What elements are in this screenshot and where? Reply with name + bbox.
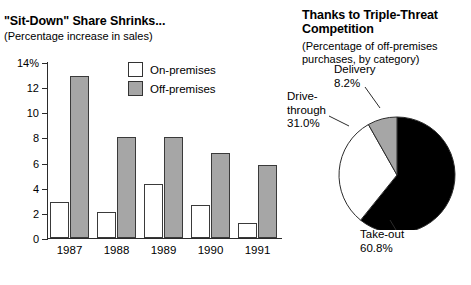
pie-chart-title: Thanks to Triple-Threat Competition bbox=[302, 8, 470, 36]
bar-group-1989 bbox=[144, 62, 191, 238]
pie-chart-panel: Thanks to Triple-Threat Competition (Per… bbox=[292, 0, 471, 285]
bar-1991-off-premises bbox=[258, 165, 277, 238]
bar-group-1988 bbox=[97, 62, 144, 238]
x-axis-label-1988: 1988 bbox=[93, 244, 140, 256]
bar-chart-title: "Sit-Down" Share Shrinks... bbox=[4, 14, 165, 28]
pie-label-drive-through: Drive- through 31.0% bbox=[287, 90, 326, 131]
pie-label-drive-through-name-2: through bbox=[287, 104, 326, 118]
bar-group-1990 bbox=[191, 62, 238, 238]
bar-1989-on-premises bbox=[144, 184, 163, 238]
y-tick-mark bbox=[42, 214, 48, 215]
y-tick-label: 10 bbox=[0, 113, 39, 114]
y-tick-label: 14% bbox=[0, 63, 39, 64]
y-tick-label: 12 bbox=[0, 88, 39, 89]
x-axis-label-1989: 1989 bbox=[140, 244, 187, 256]
bar-chart-panel: "Sit-Down" Share Shrinks... (Percentage … bbox=[0, 0, 292, 285]
bar-1987-on-premises bbox=[50, 202, 69, 238]
y-tick-label: 8 bbox=[0, 138, 39, 139]
x-axis-line bbox=[47, 238, 282, 239]
x-axis-label-1987: 1987 bbox=[46, 244, 93, 256]
pie-label-take-out: Take-out 60.8% bbox=[360, 228, 404, 255]
y-tick-mark bbox=[42, 63, 48, 64]
bar-1989-off-premises bbox=[164, 137, 183, 238]
pie-chart-graphic bbox=[287, 55, 471, 230]
y-tick-mark bbox=[42, 164, 48, 165]
pie-label-drive-through-value: 31.0% bbox=[287, 117, 326, 131]
y-tick-label: 6 bbox=[0, 164, 39, 165]
pie-label-take-out-value: 60.8% bbox=[360, 242, 404, 256]
y-tick-mark bbox=[42, 138, 48, 139]
x-axis-label-1990: 1990 bbox=[187, 244, 234, 256]
y-tick-label: 4 bbox=[0, 189, 39, 190]
bar-1987-off-premises bbox=[70, 76, 89, 238]
pie-label-delivery-value: 8.2% bbox=[334, 77, 376, 91]
bar-chart-subtitle: (Percentage increase in sales) bbox=[4, 30, 153, 42]
pie-slices bbox=[339, 117, 455, 230]
y-tick-label: 2 bbox=[0, 214, 39, 215]
y-tick-label: 0 bbox=[0, 239, 39, 240]
pie-label-take-out-name: Take-out bbox=[360, 228, 404, 242]
y-tick-mark bbox=[42, 113, 48, 114]
y-tick-mark bbox=[42, 88, 48, 89]
bar-group-1991 bbox=[238, 62, 285, 238]
pie-label-drive-through-name-1: Drive- bbox=[287, 90, 326, 104]
bar-1990-on-premises bbox=[191, 205, 210, 238]
leader-line-drive-through bbox=[329, 116, 349, 126]
bar-group-1987 bbox=[50, 62, 97, 238]
pie-label-delivery: Delivery 8.2% bbox=[334, 63, 376, 90]
pie-label-delivery-name: Delivery bbox=[334, 63, 376, 77]
x-axis-label-1991: 1991 bbox=[234, 244, 281, 256]
bar-1990-off-premises bbox=[211, 153, 230, 238]
bar-1991-on-premises bbox=[238, 223, 257, 238]
leader-line-delivery bbox=[365, 87, 380, 108]
bar-chart-plot-area: 02468101214% 19871988198919901991 bbox=[47, 62, 282, 239]
bar-1988-on-premises bbox=[97, 212, 116, 238]
bar-1988-off-premises bbox=[117, 137, 136, 238]
y-tick-mark bbox=[42, 189, 48, 190]
y-tick-mark bbox=[42, 239, 48, 240]
